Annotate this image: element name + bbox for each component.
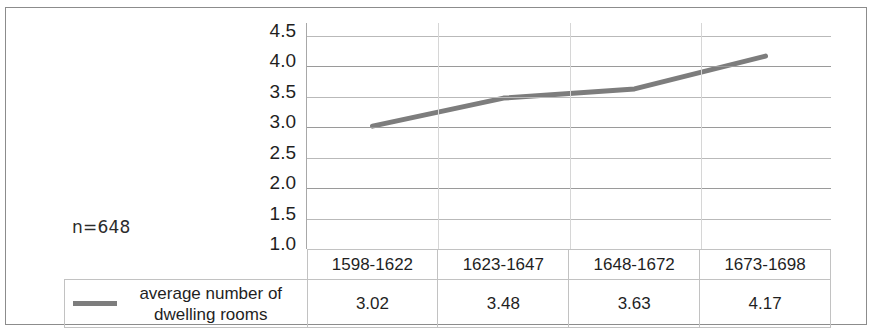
table-header-period-2: 1623-1647 (438, 250, 569, 280)
table-value-period-1: 3.02 (307, 280, 438, 328)
table-header-period-4: 1673-1698 (700, 250, 831, 280)
y-axis-tick-4.5: 4.5 (234, 21, 296, 40)
legend-entry: average number of dwelling rooms (65, 280, 307, 327)
column-separator-1 (438, 23, 439, 249)
legend-series-label: average number of dwelling rooms (121, 283, 301, 325)
sample-size-annotation: n=648 (72, 217, 130, 237)
table-header-row: 1598-1622 1623-1647 1648-1672 1673-1698 (65, 250, 831, 280)
y-axis-tick-1.5: 1.5 (234, 203, 296, 222)
y-axis-tick-2.0: 2.0 (234, 173, 296, 192)
data-table: 1598-1622 1623-1647 1648-1672 1673-1698 … (64, 249, 831, 328)
table-header-period-3: 1648-1672 (569, 250, 700, 280)
table-value-period-3: 3.63 (569, 280, 700, 328)
y-axis-tick-4.0: 4.0 (234, 51, 296, 70)
table-value-row: average number of dwelling rooms 3.02 3.… (65, 280, 831, 328)
header-spacer-cell (65, 250, 308, 280)
table-value-period-2: 3.48 (438, 280, 569, 328)
y-axis: 4.54.03.53.02.52.01.51.0 (234, 20, 296, 248)
column-separator-2 (570, 23, 571, 249)
column-separator-3 (701, 23, 702, 249)
plot-area (306, 23, 831, 249)
y-axis-tick-2.5: 2.5 (234, 142, 296, 161)
chart-figure: n=648 4.54.03.53.02.52.01.51.0 1598-1622… (5, 7, 867, 325)
legend-line-swatch-icon (73, 301, 117, 306)
table-header-period-1: 1598-1622 (307, 250, 438, 280)
legend-cell: average number of dwelling rooms (65, 280, 308, 328)
table-value-period-4: 4.17 (700, 280, 831, 328)
y-axis-tick-3.0: 3.0 (234, 112, 296, 131)
y-axis-tick-3.5: 3.5 (234, 81, 296, 100)
